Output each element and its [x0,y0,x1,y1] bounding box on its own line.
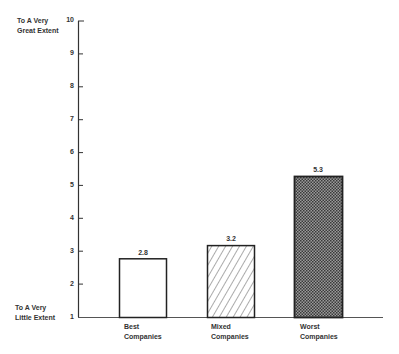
category-line1: Mixed [211,322,249,332]
category-line2: Companies [300,332,338,342]
bar-chart: To A Very Great Extent To A Very Little … [0,0,399,354]
bar-value-label: 2.8 [119,249,167,256]
y-tick-label: 8 [62,82,74,89]
category-line2: Companies [124,332,162,342]
category-label-best: Best Companies [124,322,162,342]
y-tick-label: 9 [62,49,74,56]
y-top-label-line2: Great Extent [17,26,59,36]
category-label-mixed: Mixed Companies [211,322,249,342]
y-tick-label: 10 [62,16,74,23]
y-top-label: To A Very Great Extent [17,16,59,36]
y-tick-label: 6 [62,148,74,155]
y-tick-label: 3 [62,247,74,254]
y-tick-label: 5 [62,181,74,188]
y-tick-label: 1 [62,313,74,320]
bar-worst-companies [295,177,343,318]
y-tick-label: 2 [62,280,74,287]
chart-canvas [0,0,399,354]
bar-value-label: 3.2 [207,235,255,242]
category-label-worst: Worst Companies [300,322,338,342]
y-tick-label: 4 [62,214,74,221]
category-line1: Worst [300,322,338,332]
bar-best-companies [120,259,167,318]
bar-mixed-companies [208,246,255,318]
y-tick-label: 7 [62,115,74,122]
bar-value-label: 5.3 [294,166,342,173]
category-line1: Best [124,322,162,332]
y-bottom-label: To A Very Little Extent [15,303,55,323]
category-line2: Companies [211,332,249,342]
y-top-label-line1: To A Very [17,16,59,26]
y-bottom-label-line1: To A Very [15,303,55,313]
y-bottom-label-line2: Little Extent [15,313,55,323]
